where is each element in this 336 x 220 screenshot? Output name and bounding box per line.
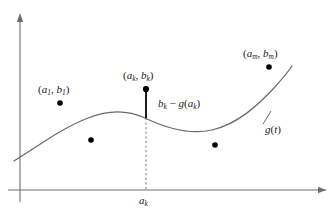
data-point-ambm xyxy=(266,64,272,70)
data-point-unlabeled-1 xyxy=(88,137,94,143)
label-residual-expression: bk − g(ak) xyxy=(158,98,200,110)
label-curve-gt: g(t) xyxy=(265,124,281,135)
minus-sign: − xyxy=(167,97,179,109)
x-axis-arrowhead xyxy=(318,187,326,194)
paren-close: ) xyxy=(197,97,201,109)
x-axis-tick-label-ak: ak xyxy=(139,195,148,207)
paren-close: ) xyxy=(277,123,281,135)
y-axis-arrowhead xyxy=(17,13,23,22)
paren-close: ) xyxy=(66,83,70,95)
sub-a: k xyxy=(145,199,148,208)
y-axis xyxy=(17,13,23,202)
data-point-a1b1 xyxy=(57,100,63,106)
data-point-akbk xyxy=(143,86,149,92)
paren-close: ) xyxy=(150,69,154,81)
label-point-ak-bk: (ak, bk) xyxy=(123,70,154,82)
least-squares-figure: (a1, b1) (ak, bk) (am, bm) bk − g(ak) g(… xyxy=(0,0,336,220)
paren-close: ) xyxy=(274,47,278,59)
data-point-unlabeled-2 xyxy=(212,142,218,148)
label-point-a1-b1: (a1, b1) xyxy=(38,84,69,96)
label-point-am-bm: (am, bm) xyxy=(243,48,278,60)
x-axis xyxy=(8,187,326,194)
